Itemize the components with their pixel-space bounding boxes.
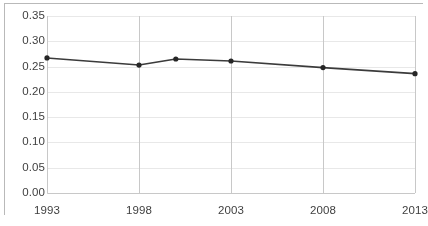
y-axis-tick-label: 0.10 — [5, 136, 45, 148]
x-axis-tick-labels: 19931998200320082013 — [5, 196, 424, 216]
x-axis-tick-label: 2013 — [385, 204, 428, 216]
y-axis-tick-label: 0.15 — [5, 111, 45, 123]
y-axis-tick-label: 0.35 — [5, 10, 45, 22]
x-axis-tick-label: 2008 — [293, 204, 353, 216]
y-axis-tick-label: 0.25 — [5, 61, 45, 73]
x-axis-tick-label: 1993 — [17, 204, 77, 216]
x-axis-tick-label: 1998 — [109, 204, 169, 216]
y-axis-tick-label: 0.20 — [5, 86, 45, 98]
line-chart-figure: 0.000.050.100.150.200.250.300.35 1993199… — [4, 3, 423, 215]
y-axis-tick-label: 0.30 — [5, 35, 45, 47]
y-axis-tick-label: 0.05 — [5, 162, 45, 174]
chart-plot-area — [5, 4, 424, 216]
x-axis-tick-label: 2003 — [201, 204, 261, 216]
y-axis-tick-labels: 0.000.050.100.150.200.250.300.35 — [5, 4, 45, 216]
